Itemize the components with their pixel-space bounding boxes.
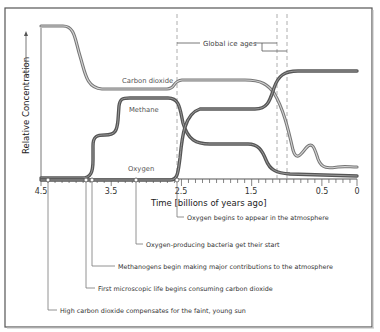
svg-text:4.5: 4.5: [35, 187, 48, 196]
svg-text:Oxygen: Oxygen: [128, 165, 154, 173]
annotation-oxygen-appears: Oxygen begins to appear in the atmospher…: [187, 214, 329, 222]
svg-text:0.5: 0.5: [316, 187, 329, 196]
svg-text:Methane: Methane: [129, 106, 159, 114]
svg-text:2.5: 2.5: [175, 187, 188, 196]
svg-text:1.5: 1.5: [245, 187, 258, 196]
svg-text:Global ice ages: Global ice ages: [203, 40, 257, 48]
annotation-first-life: First microscopic life begins consuming …: [98, 285, 273, 293]
frame-border: [5, 8, 372, 327]
annotation-oxygen-bacteria: Oxygen-producing bacteria get their star…: [146, 241, 280, 249]
annotation-high-co2: High carbon dioxide compensates for the …: [60, 307, 246, 315]
chart-figure: Relative Concentration 4.5 3.5 2.5 1.5 0…: [0, 0, 380, 332]
svg-text:0: 0: [354, 187, 359, 196]
svg-text:Carbon dioxide: Carbon dioxide: [122, 77, 173, 85]
svg-text:3.5: 3.5: [105, 187, 118, 196]
x-axis-label: Time [billions of years ago]: [150, 198, 267, 208]
annotation-methanogens: Methanogens begin making major contribut…: [118, 263, 333, 271]
